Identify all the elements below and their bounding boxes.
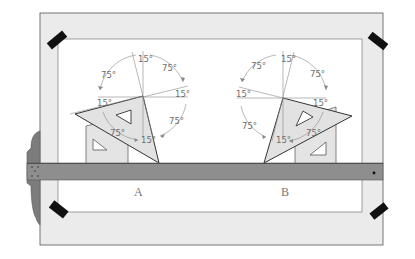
angle-a-lower-left: 75°	[110, 128, 125, 138]
angle-b-bottom: 15°	[276, 135, 291, 145]
angle-b-right: 15°	[313, 98, 328, 108]
angle-a-lower-right: 75°	[169, 116, 184, 126]
angle-a-bottom: 15°	[141, 135, 156, 145]
angle-a-left: 15°	[97, 98, 112, 108]
angle-b-lower-left: 75°	[242, 121, 257, 131]
figure-label-a: A	[134, 185, 143, 200]
angle-a-right: 15°	[175, 89, 190, 99]
angle-a-upper-right: 75°	[162, 63, 177, 73]
figure-label-b: B	[281, 185, 289, 200]
angle-a-top: 15°	[138, 54, 153, 64]
t-square-blade[interactable]	[27, 163, 383, 180]
angle-b-left: 15°	[236, 89, 251, 99]
angle-a-upper-left: 75°	[101, 70, 116, 80]
angle-b-top: 15°	[281, 54, 296, 64]
angle-b-lower-right: 75°	[306, 128, 321, 138]
angle-b-upper-right: 75°	[310, 69, 325, 79]
angle-b-upper-left: 75°	[251, 61, 266, 71]
drafting-board-figure: 15° 75° 75° 15° 15° 75° 75° 15°	[0, 0, 415, 259]
